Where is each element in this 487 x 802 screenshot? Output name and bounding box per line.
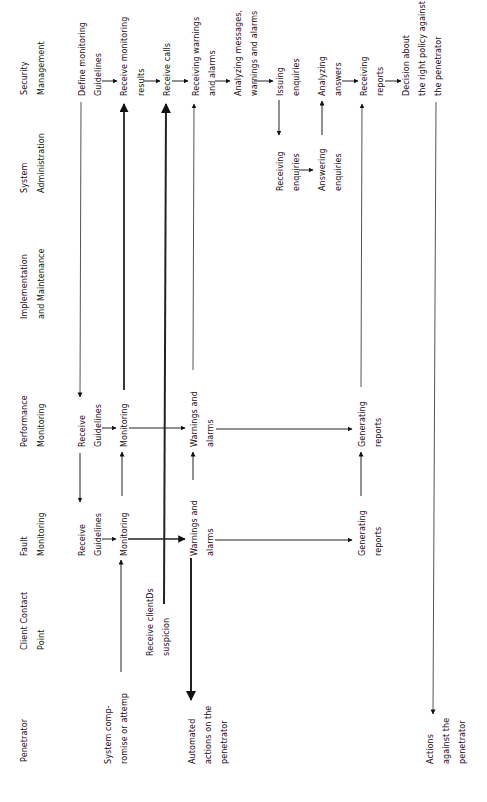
- node-client-receive-2: suspicion: [162, 618, 172, 656]
- node-fault-warnings-1: Warnings and: [190, 500, 200, 556]
- node-receiving-reports-2: reports: [376, 67, 386, 96]
- node-receive-monitoring-2: results: [137, 68, 147, 96]
- node-define-monitoring-1: Define monitoring: [78, 22, 88, 96]
- node-receiving-enquiries-1: Receiving: [276, 151, 286, 191]
- node-define-monitoring-2: Guidelines: [94, 53, 104, 96]
- node-fault-receive-1: Receive: [78, 524, 88, 556]
- node-automated-actions-1: Automated: [188, 719, 198, 764]
- lane-system-administration-label-2: Administration: [37, 133, 47, 193]
- lane-performance-monitoring-label-2: Monitoring: [37, 403, 47, 447]
- node-analyzing-messages-2: warnings and alarms: [250, 11, 260, 96]
- lane-client-contact-label-1: Client Contact: [20, 592, 30, 650]
- process-flow-diagram: Security Management System Administratio…: [0, 0, 487, 802]
- node-fault-generating-1: Generating: [358, 510, 368, 556]
- node-receive-calls: Receive calls: [163, 43, 173, 96]
- node-automated-actions-3: penetrator: [220, 720, 230, 764]
- node-actions-against-1: Actions: [426, 734, 436, 764]
- node-system-compromise-1: System comp-: [104, 705, 114, 764]
- lane-system-administration-label-1: System: [20, 163, 30, 193]
- node-decision-1: Decision about: [402, 35, 412, 96]
- lane-client-contact-label-2: Point: [37, 630, 47, 650]
- node-perf-warnings-1: Warnings and: [190, 391, 200, 447]
- lane-security-management-label-2: Management: [37, 41, 47, 95]
- node-receiving-reports-1: Receiving: [360, 56, 370, 96]
- node-perf-generating-2: reports: [374, 418, 384, 447]
- lane-fault-monitoring-label-1: Fault: [20, 536, 30, 556]
- node-analyzing-messages-1: Analyzing messages,: [234, 10, 244, 96]
- lane-implementation-label-1: Implementation: [20, 254, 30, 319]
- node-answering-enquiries-2: enquiries: [334, 153, 344, 191]
- node-fault-monitoring: Monitoring: [120, 512, 130, 556]
- node-fault-warnings-2: alarms: [206, 528, 216, 556]
- node-decision-2: the right policy against: [418, 1, 428, 96]
- lane-fault-monitoring-label-2: Monitoring: [37, 512, 47, 556]
- node-receive-monitoring-1: Receive monitoring: [120, 17, 130, 96]
- node-fault-generating-2: reports: [374, 527, 384, 556]
- lane-security-management-label-1: Security: [20, 61, 30, 95]
- node-client-receive-1: Receive clientDs: [146, 588, 156, 656]
- node-issuing-enquiries-2: enquiries: [292, 58, 302, 96]
- node-fault-receive-2: Guidelines: [94, 513, 104, 556]
- node-answering-enquiries-1: Answering: [318, 148, 328, 191]
- node-perf-monitoring: Monitoring: [120, 403, 130, 447]
- node-perf-receive-1: Receive: [78, 415, 88, 447]
- lane-penetrator-label-1: Penetrator: [20, 719, 30, 762]
- node-analyzing-answers-1: Analyzing: [318, 56, 328, 96]
- lane-performance-monitoring-label-1: Performance: [20, 395, 30, 447]
- connector-layer: [0, 0, 487, 802]
- node-receiving-warnings-2: and alarms: [208, 50, 218, 96]
- node-system-compromise-2: romise or attemp: [120, 693, 130, 764]
- node-perf-generating-1: Generating: [358, 401, 368, 447]
- lane-implementation-label-2: and Maintenance: [37, 248, 47, 319]
- node-automated-actions-2: actions on the: [204, 706, 214, 764]
- node-issuing-enquiries-1: Issuing: [276, 67, 286, 96]
- node-perf-receive-2: Guidelines: [94, 404, 104, 447]
- node-decision-3: the penetrator: [434, 36, 444, 96]
- node-perf-warnings-2: alarms: [206, 419, 216, 447]
- node-actions-against-2: against the: [442, 718, 452, 764]
- node-actions-against-3: penetrator: [458, 720, 468, 764]
- node-receiving-warnings-1: Receiving warnings: [192, 17, 202, 96]
- node-analyzing-answers-2: answers: [334, 62, 344, 96]
- node-receiving-enquiries-2: enquiries: [292, 153, 302, 191]
